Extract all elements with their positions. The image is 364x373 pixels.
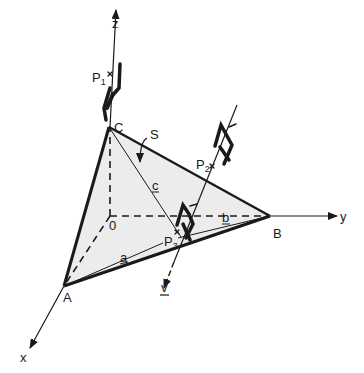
x-axis [30, 286, 64, 348]
observer-p2-label: P2 [196, 157, 210, 174]
diagram-svg: z y x 0 C B A S a b c v P1 P2 P3 [0, 0, 364, 373]
origin-label: 0 [109, 218, 116, 233]
plane-s [64, 127, 270, 286]
x-axis-label: x [20, 350, 27, 365]
point-b-label: B [273, 226, 282, 241]
y-axis-label: y [340, 209, 347, 224]
z-axis-label: z [112, 16, 119, 31]
vector-v-label: v [161, 280, 168, 295]
segment-b-label: b [222, 210, 229, 225]
diagram-canvas: z y x 0 C B A S a b c v P1 P2 P3 [0, 0, 364, 373]
segment-c-label: c [152, 178, 159, 193]
plane-s-label: S [150, 127, 159, 142]
point-a-label: A [63, 290, 72, 305]
observer-p1-label: P1 [92, 70, 106, 87]
point-c-label: C [114, 120, 123, 135]
